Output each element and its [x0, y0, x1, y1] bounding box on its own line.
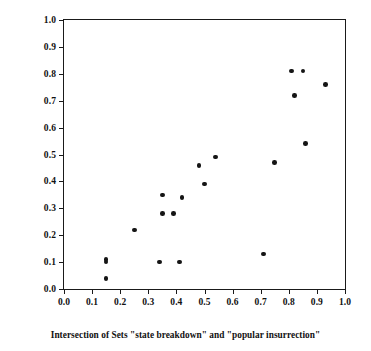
x-axis-tick-label: 1.0 [339, 297, 351, 307]
x-axis-tick [64, 289, 65, 294]
data-point [323, 82, 328, 87]
y-axis-tick-label: 0.4 [44, 176, 56, 186]
y-axis-tick-label: 0.1 [44, 257, 56, 267]
data-point [289, 69, 294, 74]
y-axis-tick-label: 1.0 [44, 15, 56, 25]
y-axis-tick-label: 0.2 [44, 230, 56, 240]
y-axis-tick-label: 0.8 [44, 69, 56, 79]
y-axis-tick [59, 262, 64, 263]
y-axis-tick-label: 0.5 [44, 150, 56, 160]
x-axis-tick-label: 0.9 [311, 297, 323, 307]
x-axis-title: Intersection of Sets "state breakdown" a… [0, 330, 371, 340]
data-point [301, 69, 306, 74]
x-axis-tick [233, 289, 234, 294]
data-point [292, 93, 297, 98]
y-axis-tick [59, 208, 64, 209]
y-axis-tick [59, 20, 64, 21]
x-axis-tick-label: 0.2 [114, 297, 126, 307]
data-point [202, 182, 207, 187]
x-axis-tick [92, 289, 93, 294]
data-point [213, 155, 218, 160]
data-point [104, 260, 109, 265]
y-axis-tick-label: 0.7 [44, 96, 56, 106]
x-axis-tick-label: 0.3 [142, 297, 154, 307]
x-axis-tick [345, 289, 346, 294]
x-axis-tick [317, 289, 318, 294]
data-point [272, 160, 277, 165]
y-axis-tick [59, 155, 64, 156]
data-point [160, 211, 165, 216]
y-axis-tick [59, 235, 64, 236]
y-axis-tick-label: 0.0 [44, 284, 56, 294]
x-axis-tick-label: 0.4 [170, 297, 182, 307]
x-axis-tick-label: 0.1 [86, 297, 98, 307]
data-point [180, 195, 185, 200]
x-axis-tick-label: 0.6 [227, 297, 239, 307]
y-axis-tick-label: 0.3 [44, 203, 56, 213]
y-axis-tick [59, 128, 64, 129]
x-axis-tick-label: 0.7 [255, 297, 267, 307]
x-axis-tick [261, 289, 262, 294]
y-axis-tick [59, 74, 64, 75]
x-axis-tick [176, 289, 177, 294]
data-point [132, 228, 137, 233]
data-point [261, 252, 266, 257]
y-axis-title-text: Membership in Set of "social revolutions… [4, 0, 14, 19]
data-point [160, 193, 165, 198]
x-axis-tick-label: 0.8 [283, 297, 295, 307]
x-axis-tick [148, 289, 149, 294]
data-point [171, 211, 176, 216]
y-axis-tick-label: 0.6 [44, 123, 56, 133]
x-axis-tick-label: 0.5 [198, 297, 210, 307]
y-axis-tick [59, 47, 64, 48]
y-axis-title: Membership in Set of "social revolutions… [14, 0, 28, 19]
x-axis-tick [120, 289, 121, 294]
x-axis-tick [205, 289, 206, 294]
y-axis-tick [59, 181, 64, 182]
data-point [197, 163, 202, 168]
x-axis-tick-label: 0.0 [58, 297, 70, 307]
data-point [157, 260, 162, 265]
data-points-layer [64, 20, 345, 289]
x-axis-tick [289, 289, 290, 294]
y-axis-tick [59, 101, 64, 102]
data-point [177, 260, 182, 265]
data-point [303, 141, 308, 146]
data-point [104, 276, 109, 281]
scatter-plot-figure: 0.00.10.20.30.40.50.60.70.80.91.0 0.00.1… [0, 0, 371, 351]
y-axis-tick-label: 0.9 [44, 42, 56, 52]
plot-area: 0.00.10.20.30.40.50.60.70.80.91.0 0.00.1… [63, 19, 346, 290]
